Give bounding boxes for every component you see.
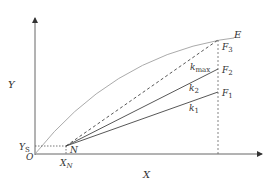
point-f2-label: F2 (221, 65, 233, 77)
curve-tail (220, 38, 234, 40)
y-axis-label: Y (8, 79, 16, 90)
x-axis-label: X (142, 169, 151, 180)
line-kmax-label: kmax (190, 62, 210, 74)
xn-label: XN (59, 158, 73, 170)
curve-o-to-e (35, 40, 220, 154)
point-f3-label: F3 (221, 42, 233, 54)
point-f1-label: F1 (221, 88, 233, 100)
point-n-label: N (69, 145, 79, 155)
line-k1-label: k1 (189, 103, 199, 115)
diagram-canvas: Y X O YS XN N E F3 F2 F1 kmax k2 k1 (0, 0, 273, 186)
point-e-label: E (233, 29, 242, 40)
ys-label: YS (19, 142, 30, 154)
line-k2-label: k2 (189, 83, 199, 95)
